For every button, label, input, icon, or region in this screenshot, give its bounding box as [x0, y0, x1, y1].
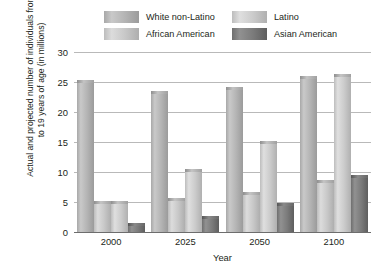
bar-cap	[168, 198, 185, 201]
y-axis-tick-30: 30	[58, 47, 68, 58]
legend-swatch-latino	[232, 11, 267, 23]
bar-group-2025	[151, 52, 219, 232]
legend-entry-latino: Latino	[232, 8, 366, 25]
legend-entry-african-american: African American	[104, 25, 232, 42]
bar-cap	[351, 175, 368, 178]
bar-cap	[277, 203, 294, 206]
legend-label-asian-american: Asian American	[274, 29, 337, 39]
chart-legend: White non-Latino Latino African American…	[104, 8, 366, 42]
bar-cap	[317, 180, 334, 183]
x-axis-line	[74, 232, 371, 233]
y-axis-tick-20: 20	[58, 107, 68, 118]
x-axis-tick-2050: 2050	[223, 236, 297, 247]
bar-white-non-latino-2025	[151, 93, 168, 232]
bar-cap	[334, 74, 351, 77]
bar-latino-2025	[185, 171, 202, 232]
bar-cap	[151, 91, 168, 94]
bar-african-american-2000	[94, 203, 111, 232]
bar-latino-2050	[260, 143, 277, 232]
x-axis-tick-2025: 2025	[148, 236, 222, 247]
bar-cap	[128, 223, 145, 226]
bar-asian-american-2000	[128, 225, 145, 232]
bar-african-american-2050	[243, 194, 260, 232]
bar-groups	[74, 52, 371, 232]
legend-label-white-non-latino: White non-Latino	[146, 12, 215, 22]
bar-cap	[243, 192, 260, 195]
legend-swatch-african-american	[104, 28, 139, 40]
y-axis-tick-5: 5	[63, 197, 68, 208]
bar-asian-american-2100	[351, 177, 368, 232]
bar-cap	[77, 80, 94, 83]
legend-entry-asian-american: Asian American	[232, 25, 366, 42]
bar-group-2100	[300, 52, 368, 232]
y-axis-title: Actual and projected number of individua…	[16, 0, 56, 178]
bar-african-american-2100	[317, 182, 334, 232]
y-axis-tick-25: 25	[58, 77, 68, 88]
bar-cap	[202, 216, 219, 219]
bar-latino-2000	[111, 203, 128, 232]
bar-cap	[111, 201, 128, 204]
x-axis-tick-labels: 2000202520502100	[74, 236, 371, 247]
legend-swatch-white-non-latino	[104, 11, 139, 23]
bar-white-non-latino-2050	[226, 89, 243, 232]
bar-cap	[300, 76, 317, 79]
bar-cap	[185, 169, 202, 172]
bar-cap	[260, 141, 277, 144]
y-axis-tick-15: 15	[58, 137, 68, 148]
bar-cap	[94, 201, 111, 204]
bar-african-american-2025	[168, 200, 185, 232]
x-axis-tick-2100: 2100	[297, 236, 371, 247]
legend-entry-white-non-latino: White non-Latino	[104, 8, 232, 25]
bar-group-2050	[226, 52, 294, 232]
bar-asian-american-2025	[202, 218, 219, 232]
x-axis-title: Year	[74, 252, 371, 263]
bar-white-non-latino-2100	[300, 78, 317, 232]
legend-label-latino: Latino	[274, 12, 299, 22]
bar-cap	[226, 87, 243, 90]
legend-label-african-american: African American	[146, 29, 215, 39]
x-axis-tick-2000: 2000	[74, 236, 148, 247]
bar-white-non-latino-2000	[77, 82, 94, 232]
legend-swatch-asian-american	[232, 28, 267, 40]
bar-group-2000	[77, 52, 145, 232]
bar-latino-2100	[334, 76, 351, 232]
bar-asian-american-2050	[277, 205, 294, 232]
y-axis-tick-10: 10	[58, 167, 68, 178]
y-axis-tick-0: 0	[63, 227, 68, 238]
plot-area: 051015202530	[74, 52, 371, 232]
